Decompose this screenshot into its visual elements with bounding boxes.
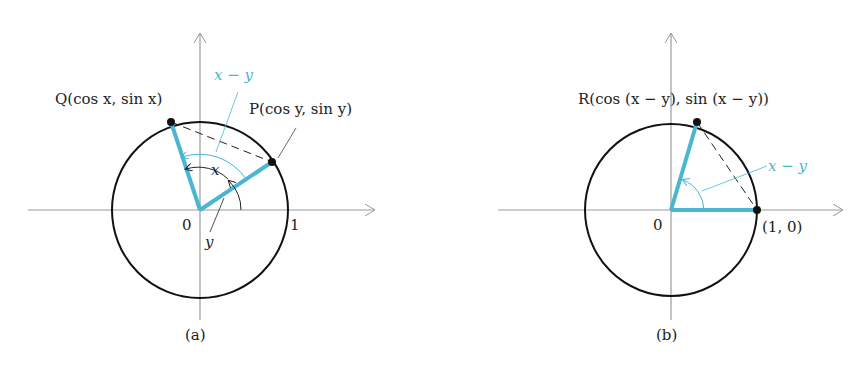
point-unit <box>753 206 761 214</box>
one-label: 1 <box>290 216 300 234</box>
diff-leader <box>702 166 767 191</box>
unit-point-label: (1, 0) <box>762 218 802 236</box>
point-r <box>693 118 701 126</box>
r-label: R(cos (x − y), sin (x − y)) <box>578 90 769 108</box>
angle-x-label: x <box>211 161 220 179</box>
radius-q <box>171 122 200 210</box>
angle-diff-label: x − y <box>214 66 254 84</box>
origin-label: 0 <box>182 216 192 234</box>
caption-a: (a) <box>185 326 206 344</box>
p-leader <box>278 128 296 158</box>
q-label: Q(cos x, sin x) <box>55 90 162 108</box>
point-q <box>167 118 175 126</box>
p-label: P(cos y, sin y) <box>249 100 352 118</box>
figure-b: R(cos (x − y), sin (x − y)) x − y 0 (1, … <box>498 33 843 344</box>
angle-x-arc <box>186 167 228 179</box>
diagram-canvas: Q(cos x, sin x) P(cos y, sin y) x − y x … <box>0 0 861 367</box>
diff-leader <box>216 92 238 152</box>
point-p <box>268 158 276 166</box>
caption-b: (b) <box>656 326 677 344</box>
angle-diff-arc <box>683 180 704 210</box>
radius-r <box>671 122 697 210</box>
unit-circle-figure: Q(cos x, sin x) P(cos y, sin y) x − y x … <box>0 0 861 367</box>
origin-label: 0 <box>653 216 663 234</box>
angle-diff-label: x − y <box>768 157 808 175</box>
figure-a: Q(cos x, sin x) P(cos y, sin y) x − y x … <box>28 33 375 344</box>
chord-dashed <box>697 122 757 210</box>
angle-y-label: y <box>204 233 214 251</box>
